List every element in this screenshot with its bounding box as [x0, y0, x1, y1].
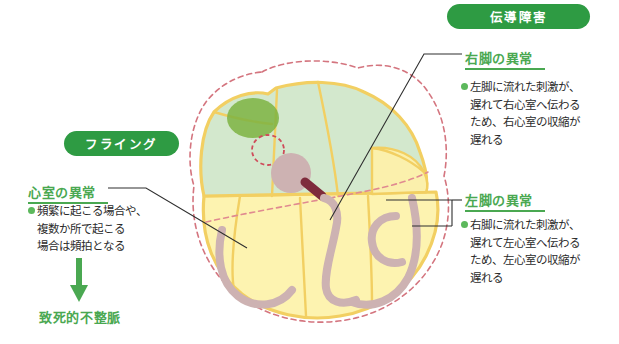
badge-flying: フライング — [64, 131, 179, 156]
bullet-icon — [461, 221, 468, 228]
note-line: 右脚に流れた刺激が、 — [461, 217, 580, 235]
note-left-bundle-abnormality: 右脚に流れた刺激が、 遅れて左心室へ伝わる ため、左心室の収縮が 遅れる — [461, 217, 580, 287]
note-right-bundle-abnormality: 左脚に流れた刺激が、 遅れて右心室へ伝わる ため、右心室の収縮が 遅れる — [461, 79, 580, 149]
heading-ventricle-text: 心室の異常 — [28, 185, 96, 200]
note-line: 複数か所で起こる — [28, 221, 147, 239]
note-line: 遅れて左心室へ伝わる — [461, 235, 580, 253]
note-line: 頻繁に起こる場合や、 — [28, 203, 147, 221]
label-fatal-arrhythmia: 致死的不整脈 — [0, 307, 160, 326]
leader-right-bundle — [330, 54, 462, 220]
heading-underline — [465, 68, 545, 70]
heading-ventricle-abnormality: 心室の異常 — [28, 182, 108, 204]
note-line: 遅れる — [461, 132, 580, 150]
note-line: 場合は頻拍となる — [28, 238, 147, 256]
heading-right-bundle-abnormality: 右脚の異常 — [465, 48, 545, 70]
arrow-down-icon — [69, 258, 89, 304]
badge-conduction-disorder: 伝導障害 — [447, 4, 590, 29]
bullet-icon — [28, 207, 35, 214]
bullet-icon — [461, 83, 468, 90]
note-line: 左脚に流れた刺激が、 — [461, 79, 580, 97]
heading-underline — [465, 210, 545, 212]
heading-left-bundle-abnormality: 左脚の異常 — [465, 190, 545, 212]
heading-left-bundle-text: 左脚の異常 — [465, 193, 533, 208]
diagram-canvas: 伝導障害 フライング 心室の異常 頻繁に起こる場合や、 複数か所で起こる 場合は… — [0, 0, 619, 344]
note-line: ため、左心室の収縮が — [461, 252, 580, 270]
note-ventricle-abnormality: 頻繁に起こる場合や、 複数か所で起こる 場合は頻拍となる — [28, 203, 147, 256]
heading-right-bundle-text: 右脚の異常 — [465, 51, 533, 66]
note-line: ため、右心室の収縮が — [461, 114, 580, 132]
note-line: 遅れる — [461, 270, 580, 288]
note-line: 遅れて右心室へ伝わる — [461, 97, 580, 115]
